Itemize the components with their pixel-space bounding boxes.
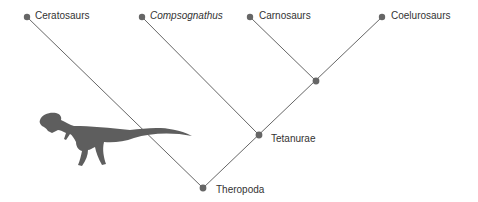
branch-coelurosaurs xyxy=(203,17,382,188)
node-label-tetanurae: Tetanurae xyxy=(271,133,315,145)
tip-node-compsognathus xyxy=(139,14,145,20)
nodes xyxy=(24,14,385,192)
branch-compsognathus xyxy=(142,17,259,135)
taxon-label-coelurosaurs: Coelurosaurs xyxy=(391,10,450,22)
tip-node-carnosaurs xyxy=(247,14,253,20)
tip-node-ceratosaurs xyxy=(24,14,30,20)
internal-node-tetanurae xyxy=(256,132,263,139)
branch-carnosaurs xyxy=(250,17,316,81)
internal-node-theropoda xyxy=(200,185,207,192)
taxon-label-carnosaurs: Carnosaurs xyxy=(259,10,311,22)
taxon-label-compsognathus: Compsognathus xyxy=(150,10,223,22)
taxon-label-ceratosaurs: Ceratosaurs xyxy=(35,10,89,22)
node-label-theropoda: Theropoda xyxy=(216,184,264,196)
internal-node-carnosaurs-coelurosaurs xyxy=(313,78,320,85)
theropod-silhouette-icon xyxy=(40,113,192,166)
branch-ceratosaurs xyxy=(27,17,203,188)
cladogram-diagram xyxy=(0,0,478,202)
tip-node-coelurosaurs xyxy=(379,14,385,20)
